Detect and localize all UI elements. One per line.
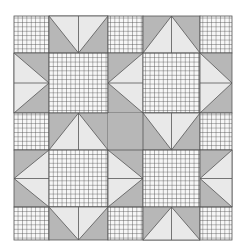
- flying-geese-down: [49, 207, 108, 240]
- solid-square: [108, 113, 143, 150]
- checkered-square: [14, 16, 49, 53]
- flying-geese-right: [14, 53, 49, 113]
- flying-geese-up: [143, 207, 200, 240]
- flying-geese-right: [108, 150, 143, 207]
- flying-geese-right: [200, 53, 232, 113]
- checkered-square: [49, 53, 108, 113]
- checkered-square: [200, 207, 232, 240]
- checkered-square: [143, 150, 200, 207]
- flying-geese-left: [200, 150, 232, 207]
- checkered-square: [49, 150, 108, 207]
- checkered-square: [143, 53, 200, 113]
- flying-geese-up: [49, 113, 108, 150]
- flying-geese-left: [108, 53, 143, 113]
- quilt-pattern: [0, 0, 247, 248]
- checkered-square: [14, 207, 49, 240]
- checkered-square: [200, 16, 232, 53]
- checkered-square: [200, 113, 232, 150]
- flying-geese-left: [14, 150, 49, 207]
- checkered-square: [108, 16, 143, 53]
- flying-geese-up: [143, 16, 200, 53]
- checkered-square: [108, 207, 143, 240]
- flying-geese-down: [143, 113, 200, 150]
- flying-geese-down: [49, 16, 108, 53]
- checkered-square: [14, 113, 49, 150]
- quilt-cells: [14, 16, 232, 240]
